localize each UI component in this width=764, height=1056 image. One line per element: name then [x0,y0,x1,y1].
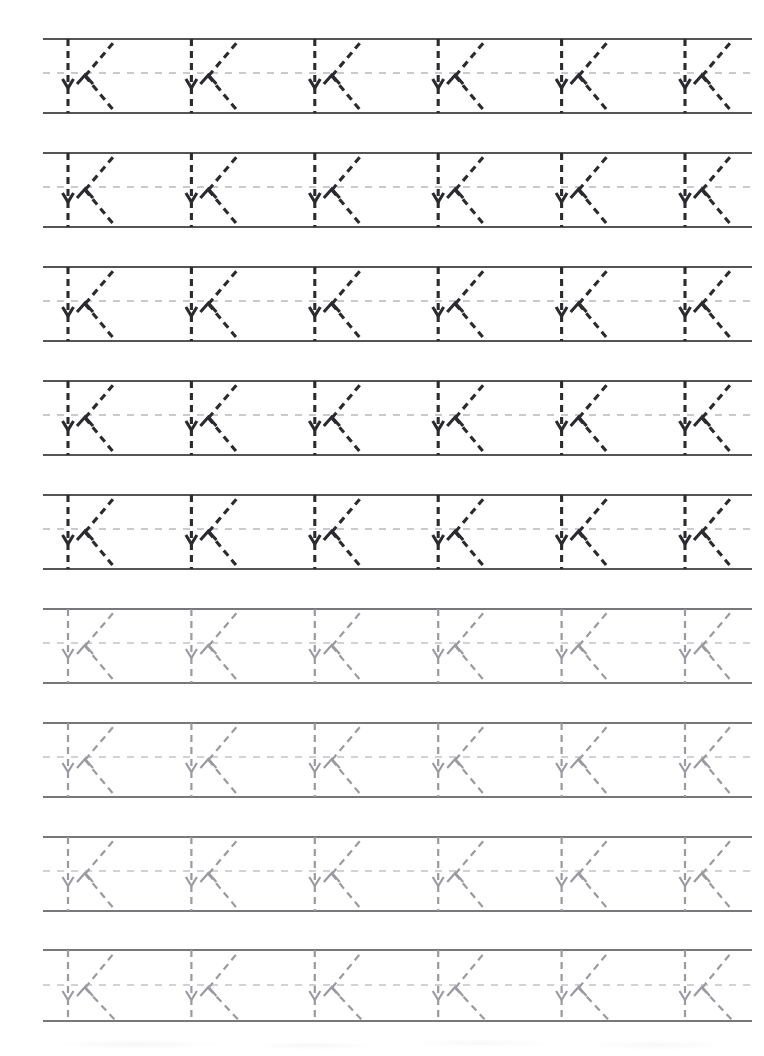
arrowhead-junction-apex [324,531,340,540]
arrowhead-junction-apex [77,417,93,426]
tracing-letter[interactable] [186,153,239,227]
stroke-upper-diagonal-arm [332,384,361,418]
tracing-letter[interactable] [309,723,362,797]
tracing-letter[interactable] [680,267,733,341]
arrowhead-junction-apex [571,531,587,540]
tracing-letter[interactable] [63,609,116,683]
tracing-letter[interactable] [556,381,609,455]
stroke-upper-diagonal-arm [455,498,484,532]
tracing-letter[interactable] [186,381,239,455]
stroke-upper-diagonal-arm [208,156,237,190]
stroke-upper-diagonal-arm [85,270,114,304]
arrowhead-junction-apex [447,873,463,882]
row-guides-and-letters [0,715,764,805]
tracing-letter[interactable] [309,153,362,227]
arrowhead-junction-apex [324,75,340,84]
arrowhead-junction-apex [694,75,710,84]
arrowhead-junction-apex [571,75,587,84]
arrowhead-junction-apex [77,873,93,882]
stroke-upper-diagonal-arm [208,726,237,760]
stroke-upper-diagonal-arm [702,498,731,532]
tracing-letter[interactable] [63,153,116,227]
worksheet-page [0,0,764,1056]
arrowhead-junction-apex [447,759,463,768]
arrowhead-junction-apex [200,189,216,198]
arrowhead-junction-apex [324,303,340,312]
arrowhead-junction-apex [200,75,216,84]
tracing-letter[interactable] [680,609,733,683]
stroke-upper-diagonal-arm [208,840,237,874]
tracing-letter[interactable] [556,609,609,683]
stroke-upper-diagonal-arm [208,384,237,418]
arrowhead-junction-apex [694,189,710,198]
tracing-letter[interactable] [556,39,609,113]
tracing-letter[interactable] [680,723,733,797]
tracing-letter[interactable] [433,609,486,683]
stroke-upper-diagonal-arm [85,612,114,646]
tracing-letter[interactable] [680,381,733,455]
arrowhead-junction-apex [200,645,216,654]
tracing-letter[interactable] [63,381,116,455]
tracing-letter[interactable] [63,723,116,797]
row-guides-and-letters [0,942,764,1029]
tracing-letter[interactable] [556,723,609,797]
row-guides-and-letters [0,601,764,691]
row-guides-and-letters [0,145,764,235]
arrowhead-junction-apex [200,417,216,426]
tracing-letter[interactable] [309,495,362,569]
stroke-upper-diagonal-arm [332,498,361,532]
arrowhead-junction-apex [77,759,93,768]
tracing-letter[interactable] [309,39,362,113]
tracing-letter[interactable] [433,153,486,227]
practice-rows-container [0,0,764,1056]
tracing-letter[interactable] [63,39,116,113]
tracing-letter[interactable] [309,609,362,683]
tracing-letter[interactable] [556,495,609,569]
tracing-letter[interactable] [433,381,486,455]
arrowhead-junction-apex [77,303,93,312]
tracing-letter[interactable] [556,267,609,341]
arrowhead-junction-apex [77,645,93,654]
stroke-upper-diagonal-arm [455,156,484,190]
tracing-letter[interactable] [309,381,362,455]
tracing-letter[interactable] [63,837,116,911]
tracing-letter[interactable] [433,723,486,797]
tracing-letter[interactable] [63,495,116,569]
stroke-upper-diagonal-arm [208,270,237,304]
tracing-letter[interactable] [186,723,239,797]
tracing-letter[interactable] [680,495,733,569]
tracing-letter[interactable] [680,39,733,113]
tracing-letter[interactable] [433,837,486,911]
tracing-letter[interactable] [556,153,609,227]
tracing-letter[interactable] [186,39,239,113]
arrowhead-junction-apex [447,303,463,312]
tracing-letter[interactable] [680,153,733,227]
arrowhead-junction-apex [571,417,587,426]
arrowhead-junction-apex [324,759,340,768]
tracing-letter[interactable] [433,267,486,341]
tracing-letter[interactable] [433,495,486,569]
row-guides-and-letters [0,829,764,919]
tracing-letter[interactable] [309,267,362,341]
stroke-upper-diagonal-arm [702,270,731,304]
tracing-letter[interactable] [556,837,609,911]
arrowhead-junction-apex [694,759,710,768]
tracing-letter[interactable] [186,837,239,911]
tracing-letter[interactable] [186,495,239,569]
stroke-upper-diagonal-arm [579,953,608,988]
tracing-letter[interactable] [186,267,239,341]
arrowhead-junction-apex [571,645,587,654]
tracing-letter[interactable] [680,837,733,911]
stroke-upper-diagonal-arm [208,42,237,76]
stroke-upper-diagonal-arm [579,384,608,418]
tracing-letter[interactable] [433,39,486,113]
practice-row [0,31,764,121]
arrowhead-junction-apex [571,873,587,882]
arrowhead-junction-apex [324,987,340,996]
stroke-upper-diagonal-arm [702,953,731,988]
stroke-upper-diagonal-arm [85,498,114,532]
tracing-letter[interactable] [186,609,239,683]
tracing-letter[interactable] [309,837,362,911]
tracing-letter[interactable] [63,267,116,341]
stroke-upper-diagonal-arm [579,726,608,760]
